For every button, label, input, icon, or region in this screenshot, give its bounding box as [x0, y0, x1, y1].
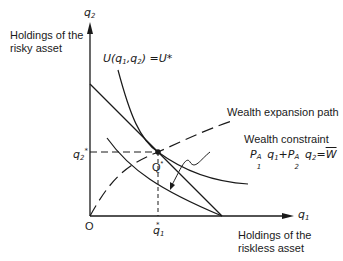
- y-axis-label-line2: risky asset: [10, 42, 83, 55]
- wealth-constraint-title: Wealth constraint: [244, 133, 329, 146]
- x-axis-label: Holdings of the riskless asset: [238, 229, 311, 255]
- x-axis-symbol: q1: [298, 208, 309, 225]
- wealth-constraint-pointer: [172, 152, 210, 185]
- wealth-expansion-path-label: Wealth expansion path: [227, 106, 339, 119]
- q1-star-label: * q1: [153, 224, 164, 241]
- x-axis-label-line1: Holdings of the: [238, 229, 311, 242]
- y-axis-label-line1: Holdings of the: [10, 29, 83, 42]
- optimum-label: Q*: [152, 157, 163, 174]
- indifference-curve-u-star: [118, 70, 248, 184]
- wealth-constraint-equation: PA1 q1+PA2 q2=W: [250, 148, 337, 165]
- x-axis-label-line2: riskless asset: [238, 242, 311, 255]
- optimum-point: [155, 149, 161, 155]
- origin-label: O: [85, 220, 94, 233]
- indifference-curve-label: U(q1,q2) =U*: [103, 52, 172, 69]
- x-axis-arrow-icon: [282, 213, 294, 219]
- y-axis-label: Holdings of the risky asset: [10, 29, 83, 55]
- indifference-curve-lower: [107, 138, 222, 216]
- q2-star-label: q2*: [73, 145, 88, 165]
- y-axis-symbol: q2: [84, 6, 95, 23]
- y-axis-arrow-icon: [87, 22, 93, 34]
